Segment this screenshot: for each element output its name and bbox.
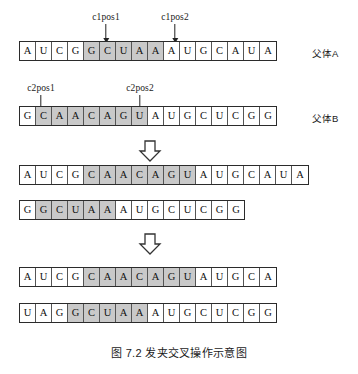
base-cell: C <box>52 42 68 60</box>
pointer-arrow-c1pos1 <box>105 24 106 39</box>
base-cell: U <box>212 107 228 125</box>
base-cell: C <box>164 201 180 219</box>
hairpin-crossover-figure: c1pos1 c1pos2 AUCGGCUAAAUGCAUA 父体A c2pos… <box>0 0 358 374</box>
base-cell: A <box>260 268 276 286</box>
base-cell: C <box>132 268 148 286</box>
base-cell: A <box>132 42 148 60</box>
base-cell: U <box>132 107 148 125</box>
base-cell: G <box>20 201 36 219</box>
sequence-strip-parent-a: AUCGGCUAAAUGCAUA <box>19 41 277 61</box>
base-cell: U <box>100 304 116 322</box>
base-cell: A <box>20 42 36 60</box>
base-cell: G <box>180 107 196 125</box>
sequence-strip-child-2: GGCUAAAUGCUCGG <box>19 200 245 220</box>
side-label-parent-b: 父体B <box>312 111 338 125</box>
pointer-label-c2pos2: c2pos2 <box>126 83 154 93</box>
base-cell: A <box>100 166 116 184</box>
base-cell: U <box>20 304 36 322</box>
base-cell: A <box>196 268 212 286</box>
base-cell: A <box>116 166 132 184</box>
base-cell: A <box>52 107 68 125</box>
base-cell: C <box>84 166 100 184</box>
base-cell: C <box>52 166 68 184</box>
base-cell: U <box>212 304 228 322</box>
base-cell: C <box>244 166 260 184</box>
base-cell: C <box>52 268 68 286</box>
base-cell: G <box>148 201 164 219</box>
sequence-strip-child-1: AUCGCAACAGUAUGCAUA <box>19 165 309 185</box>
pointer-label-c1pos1: c1pos1 <box>92 12 120 22</box>
base-cell: A <box>148 166 164 184</box>
base-cell: U <box>116 42 132 60</box>
base-cell: A <box>116 201 132 219</box>
base-cell: G <box>260 304 276 322</box>
base-cell: G <box>164 166 180 184</box>
base-cell: G <box>36 201 52 219</box>
sequence-strip-child-4: UAGGCUAAAUGCUCGG <box>19 303 277 323</box>
side-label-parent-a: 父体A <box>312 46 338 60</box>
base-cell: C <box>52 201 68 219</box>
base-cell: A <box>116 268 132 286</box>
base-cell: G <box>228 166 244 184</box>
base-cell: G <box>244 107 260 125</box>
base-cell: G <box>68 166 84 184</box>
base-cell: G <box>228 201 244 219</box>
base-cell: C <box>196 107 212 125</box>
base-cell: U <box>212 268 228 286</box>
base-cell: C <box>100 42 116 60</box>
base-cell: G <box>196 42 212 60</box>
base-cell: A <box>148 42 164 60</box>
base-cell: A <box>100 107 116 125</box>
base-cell: A <box>148 304 164 322</box>
base-cell: U <box>36 268 52 286</box>
base-cell: A <box>196 166 212 184</box>
pointer-label-c1pos2: c1pos2 <box>161 12 189 22</box>
base-cell: A <box>260 166 276 184</box>
base-cell: U <box>132 201 148 219</box>
base-cell: A <box>84 201 100 219</box>
base-cell: U <box>164 304 180 322</box>
base-cell: C <box>84 304 100 322</box>
base-cell: A <box>100 268 116 286</box>
base-cell: G <box>164 268 180 286</box>
base-cell: G <box>244 304 260 322</box>
base-cell: G <box>68 42 84 60</box>
base-cell: G <box>52 304 68 322</box>
base-cell: A <box>148 107 164 125</box>
base-cell: A <box>292 166 308 184</box>
base-cell: C <box>196 304 212 322</box>
base-cell: U <box>180 42 196 60</box>
sequence-strip-parent-b: GCAACAGUAUGCUCGG <box>19 106 277 126</box>
base-cell: A <box>148 268 164 286</box>
base-cell: C <box>228 304 244 322</box>
base-cell: G <box>116 107 132 125</box>
base-cell: U <box>68 201 84 219</box>
base-cell: C <box>84 107 100 125</box>
base-cell: C <box>228 107 244 125</box>
base-cell: U <box>180 201 196 219</box>
base-cell: C <box>36 107 52 125</box>
base-cell: G <box>68 304 84 322</box>
base-cell: C <box>132 166 148 184</box>
base-cell: U <box>244 42 260 60</box>
base-cell: C <box>196 201 212 219</box>
base-cell: U <box>36 166 52 184</box>
base-cell: G <box>84 42 100 60</box>
base-cell: U <box>276 166 292 184</box>
pointer-arrow-c1pos2 <box>174 24 175 39</box>
base-cell: A <box>260 42 276 60</box>
base-cell: U <box>180 268 196 286</box>
base-cell: A <box>164 42 180 60</box>
base-cell: G <box>228 268 244 286</box>
base-cell: A <box>100 201 116 219</box>
base-cell: C <box>244 268 260 286</box>
base-cell: A <box>20 268 36 286</box>
base-cell: G <box>212 201 228 219</box>
base-cell: C <box>212 42 228 60</box>
down-arrow-step-1 <box>138 140 162 166</box>
base-cell: U <box>180 166 196 184</box>
figure-caption: 图 7.2 发夹交叉操作示意图 <box>0 344 358 360</box>
base-cell: U <box>212 166 228 184</box>
base-cell: A <box>68 107 84 125</box>
base-cell: A <box>116 304 132 322</box>
